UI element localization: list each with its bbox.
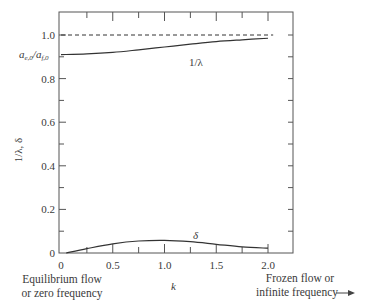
- left-note-line1: Equilibrium flow: [22, 273, 102, 286]
- y-tick-label: 0: [50, 247, 56, 259]
- series-line: [66, 240, 268, 253]
- x-tick-label: 1.0: [158, 259, 172, 271]
- y-tick-label: 0.2: [41, 203, 55, 215]
- ratio-label: ae,0/af,0: [19, 48, 49, 62]
- right-arrow-icon: [336, 290, 355, 296]
- x-tick-label: 0.5: [106, 259, 120, 271]
- tick-labels: 00.20.40.60.81.000.51.01.52.0: [41, 29, 275, 271]
- y-tick-label: 0.6: [41, 116, 55, 128]
- right-note-line1: Frozen flow or: [266, 272, 335, 284]
- inv-lambda-curve-label: 1/λ: [189, 56, 204, 68]
- chart: 00.20.40.60.81.000.51.01.52.0 1/λ, δ ae,…: [0, 0, 367, 306]
- ratio-label-sub2: f,0: [41, 54, 49, 62]
- left-note-line2: or zero frequency: [21, 287, 102, 300]
- y-tick-label: 1.0: [41, 29, 55, 41]
- axis-ticks: [59, 12, 293, 253]
- delta-curve-label: δ: [193, 229, 199, 241]
- series-line: [61, 38, 268, 54]
- ratio-label-a2: /a: [32, 48, 42, 60]
- data-series: [61, 35, 273, 253]
- x-axis-label: k: [171, 280, 177, 292]
- x-tick-label: 2.0: [261, 259, 275, 271]
- y-tick-label: 0.4: [41, 160, 55, 172]
- plot-frame: [59, 12, 293, 253]
- x-tick-label: 0: [58, 259, 64, 271]
- y-tick-label: 0.8: [41, 73, 55, 85]
- x-tick-label: 1.5: [209, 259, 223, 271]
- right-note-line2: infinite frequency: [256, 286, 338, 299]
- y-axis-label: 1/λ, δ: [12, 138, 24, 163]
